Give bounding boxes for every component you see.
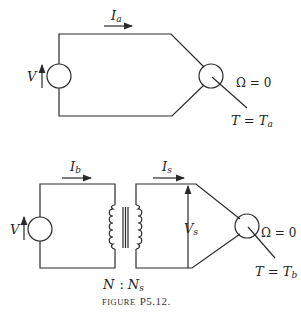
torque-label-a: T = Ta — [231, 113, 273, 129]
voltage-source-b-icon — [28, 217, 52, 241]
circuit-a: V Ia Ω = 0 T = Ta — [27, 8, 273, 129]
motor-a-icon — [199, 64, 223, 88]
current-label-a: Ia — [110, 8, 122, 24]
figure-caption: FIGUREP5.12. — [102, 295, 171, 307]
voltage-source-a-icon — [47, 64, 71, 88]
transformer-core-icon — [123, 207, 128, 248]
torque-label-b: T = Tb — [255, 264, 298, 280]
primary-current-label: Ib — [69, 159, 81, 175]
secondary-coil-icon — [136, 205, 142, 249]
speed-eq-b: Ω = 0 — [261, 226, 296, 240]
secondary-voltage-label: Vs — [184, 221, 198, 237]
circuit-b-primary-wire-top — [40, 184, 115, 217]
circuit-b: V Vs Ib Is Ω = 0 T = Tb N:Ns — [10, 159, 298, 293]
speed-eq-a: Ω = 0 — [236, 76, 271, 90]
circuit-diagram: V Ia Ω = 0 T = Ta V Vs — [0, 0, 301, 315]
motor-b-icon — [235, 214, 259, 238]
turns-ratio-label: N:Ns — [102, 277, 144, 293]
voltage-label-b: V — [10, 222, 21, 237]
secondary-current-label: Is — [161, 159, 172, 175]
circuit-a-wire-top — [59, 34, 204, 67]
circuit-a-wire-bottom — [59, 85, 204, 116]
circuit-b-primary-wire-bottom — [40, 241, 115, 268]
voltage-label-a: V — [27, 69, 38, 84]
primary-coil-icon — [109, 205, 115, 249]
